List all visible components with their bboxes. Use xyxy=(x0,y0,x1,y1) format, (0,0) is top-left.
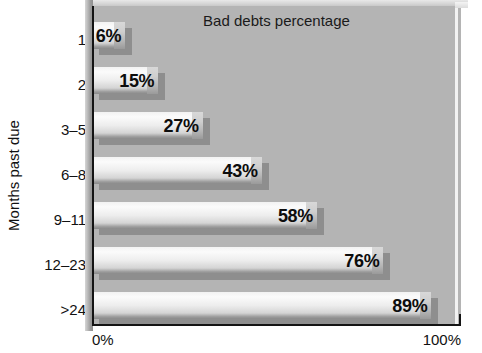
plot-bevel-right-highlight xyxy=(455,6,458,326)
y-tick-label-4: 9–11 xyxy=(0,211,86,228)
bar-value-label: 15% xyxy=(92,68,154,95)
y-tick-label-3: 6–8 xyxy=(0,166,86,183)
chart-title: Bad debts percentage xyxy=(92,12,461,29)
bar-value-label: 27% xyxy=(92,113,199,140)
x-axis-tick-100 xyxy=(459,314,461,325)
y-axis-tick-labels: 1 2 3–5 6–8 9–11 12–23 >24 xyxy=(0,0,86,353)
x-axis-line xyxy=(92,324,461,326)
y-axis-line xyxy=(92,6,94,326)
y-tick-label-1: 2 xyxy=(0,76,86,93)
plot-area: 6%15%27%43%58%76%89% xyxy=(92,6,461,325)
y-tick-label-5: 12–23 xyxy=(0,256,86,273)
bar-value-label: 58% xyxy=(92,203,313,230)
y-tick-label-6: >24 xyxy=(0,301,86,318)
y-tick-label-0: 1 xyxy=(0,31,86,48)
x-tick-label-0: 0% xyxy=(92,331,114,348)
x-tick-label-1: 100% xyxy=(423,331,461,348)
plot-bevel-topright-highlight xyxy=(455,2,468,8)
bad-debts-bar-chart: Months past due 1 2 3–5 6–8 9–11 12–23 >… xyxy=(0,0,482,353)
bar-value-label: 43% xyxy=(92,158,258,185)
y-tick-label-2: 3–5 xyxy=(0,121,86,138)
bar-value-label: 89% xyxy=(92,293,427,320)
bar-value-label: 76% xyxy=(92,248,379,275)
